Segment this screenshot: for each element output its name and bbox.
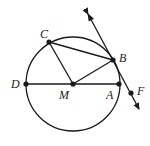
label-b: B [119, 51, 127, 65]
point-a [116, 81, 121, 86]
diagram-canvas: CBDMAF [0, 0, 150, 146]
label-d: D [10, 77, 20, 91]
label-a: A [105, 88, 114, 102]
point-d [23, 81, 28, 86]
segment-cb [49, 42, 113, 60]
point-f [128, 90, 133, 95]
segment-mb [73, 60, 113, 84]
arrow-head-icon [88, 13, 94, 21]
label-c: C [40, 27, 49, 41]
point-b [110, 57, 115, 62]
label-f: F [136, 84, 145, 98]
label-m: M [58, 88, 70, 102]
geometry-diagram: CBDMAF [0, 0, 150, 146]
point-m [70, 81, 75, 86]
